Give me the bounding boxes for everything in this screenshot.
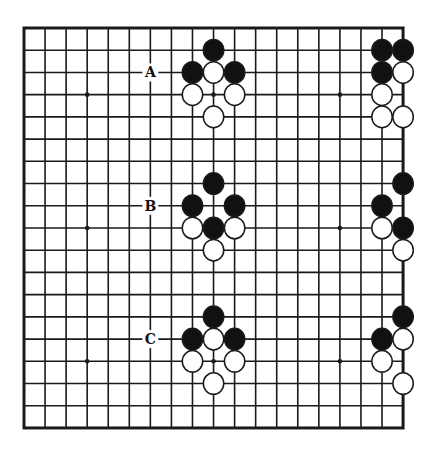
black-stone-icon — [393, 39, 413, 61]
white-stone-icon — [224, 351, 244, 373]
star-point — [211, 92, 216, 97]
white-stone-icon — [203, 239, 223, 261]
position-label-a: A — [144, 64, 157, 80]
star-point — [85, 226, 90, 231]
black-stone-icon — [393, 306, 413, 328]
white-stone-icon — [203, 106, 223, 128]
white-stone-icon — [372, 351, 392, 373]
black-stone-icon — [393, 173, 413, 195]
white-stone-icon — [372, 84, 392, 106]
white-stone-icon — [203, 62, 223, 84]
black-stone-icon — [203, 306, 223, 328]
black-stone-icon — [224, 62, 244, 84]
black-stone-icon — [203, 217, 223, 239]
black-stone-icon — [182, 62, 202, 84]
white-stone-icon — [393, 239, 413, 261]
black-stone-icon — [224, 328, 244, 350]
black-stone-icon — [393, 217, 413, 239]
black-stone-icon — [203, 39, 223, 61]
position-label-c: C — [145, 331, 156, 347]
white-stone-icon — [203, 373, 223, 395]
position-label-b: B — [144, 198, 156, 214]
star-point — [85, 359, 90, 364]
black-stone-icon — [372, 39, 392, 61]
black-stone-icon — [203, 173, 223, 195]
go-board-diagram: ABC — [0, 0, 434, 456]
white-stone-icon — [182, 351, 202, 373]
star-point — [338, 226, 343, 231]
white-stone-icon — [372, 106, 392, 128]
star-point — [211, 359, 216, 364]
white-stone-icon — [224, 217, 244, 239]
star-point — [338, 359, 343, 364]
white-stone-icon — [393, 62, 413, 84]
black-stone-icon — [224, 195, 244, 217]
white-stone-icon — [393, 373, 413, 395]
black-stone-icon — [372, 62, 392, 84]
star-point — [85, 92, 90, 97]
black-stone-icon — [372, 328, 392, 350]
star-point — [338, 92, 343, 97]
white-stone-icon — [372, 217, 392, 239]
white-stone-icon — [182, 84, 202, 106]
white-stone-icon — [224, 84, 244, 106]
white-stone-icon — [182, 217, 202, 239]
white-stone-icon — [393, 328, 413, 350]
go-board: ABC — [0, 0, 434, 456]
black-stone-icon — [182, 328, 202, 350]
black-stone-icon — [182, 195, 202, 217]
black-stone-icon — [372, 195, 392, 217]
white-stone-icon — [393, 106, 413, 128]
white-stone-icon — [203, 328, 223, 350]
